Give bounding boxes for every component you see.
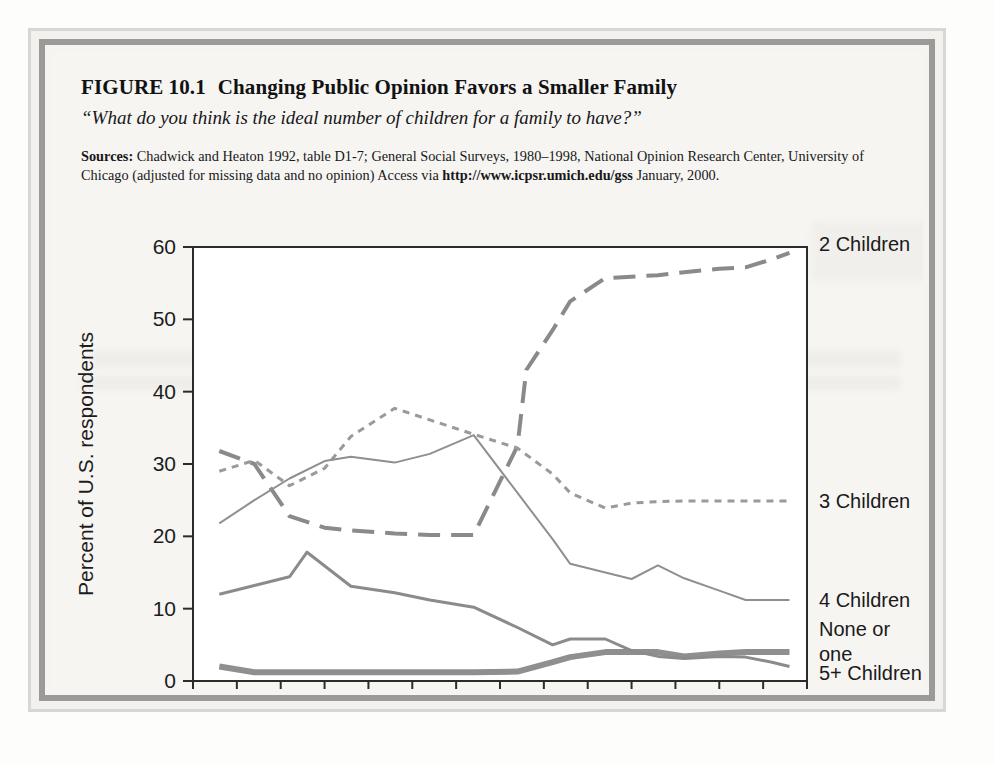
y-axis-title: Percent of U.S. respondents [74, 332, 97, 596]
series-labels: 2 Children3 Children4 ChildrenNone orone… [819, 233, 922, 684]
series-line-none-or-one [219, 652, 789, 672]
series-label-4-children: 4 Children [819, 589, 910, 611]
y-axis-ticks [183, 247, 193, 681]
x-axis-ticks [193, 681, 807, 689]
series-label-3-children: 3 Children [819, 490, 910, 512]
y-axis-tick-labels: 0102030405060 [153, 235, 176, 689]
y-tick-label: 60 [153, 235, 176, 258]
y-tick-label: 20 [153, 524, 176, 547]
sources-url: http://www.icpsr.umich.edu/gss [442, 167, 633, 183]
figure-title-text: Changing Public Opinion Favors a Smaller… [218, 75, 677, 99]
series-line-2-children [219, 253, 789, 535]
series-label-none-or-one: None or [819, 618, 890, 640]
y-tick-label: 30 [153, 452, 176, 475]
y-tick-label: 0 [164, 669, 176, 689]
series-label-5-children: 5+ Children [819, 662, 922, 684]
x-axis-minor-ticks [237, 681, 763, 689]
figure-body: FIGURE 10.1Changing Public Opinion Favor… [51, 51, 923, 689]
sources-label: Sources: [81, 148, 133, 164]
figure-number: FIGURE 10.1 [81, 75, 206, 99]
series-line-3-children [219, 408, 789, 508]
series-line-4-children [219, 435, 789, 600]
series-label-none-or-one-line2: one [819, 643, 852, 665]
y-tick-label: 50 [153, 307, 176, 330]
figure-sources: Sources: Chadwick and Heaton 1992, table… [81, 147, 881, 184]
figure-outer-frame: FIGURE 10.1Changing Public Opinion Favor… [28, 28, 946, 712]
y-tick-label: 10 [153, 597, 176, 620]
series-line-5-children [219, 552, 789, 666]
figure-title: FIGURE 10.1Changing Public Opinion Favor… [81, 75, 677, 100]
figure-page: { "figure": { "number": "FIGURE 10.1", "… [0, 0, 995, 764]
figure-subtitle: “What do you think is the ideal number o… [81, 107, 642, 129]
figure-inner-frame: FIGURE 10.1Changing Public Opinion Favor… [39, 39, 935, 701]
sources-text-last: January, 2000. [633, 167, 719, 183]
